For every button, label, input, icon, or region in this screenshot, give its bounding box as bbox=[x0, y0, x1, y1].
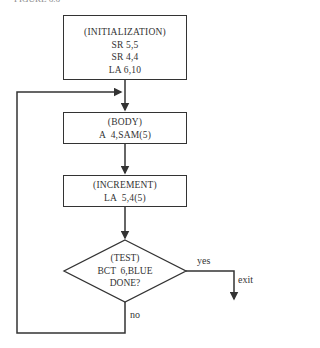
initialization-line-3: LA 6,10 bbox=[64, 64, 186, 77]
increment-title: (INCREMENT) bbox=[64, 179, 186, 192]
increment-box: (INCREMENT) LA 5,4(5) bbox=[63, 175, 187, 207]
exit-label: exit bbox=[238, 274, 253, 285]
initialization-box: (INITIALIZATION) SR 5,5 SR 4,4 LA 6,10 bbox=[63, 15, 187, 80]
initialization-line-1: SR 5,5 bbox=[64, 39, 186, 52]
initialization-line-2: SR 4,4 bbox=[64, 51, 186, 64]
increment-line-1: LA 5,4(5) bbox=[64, 192, 186, 205]
body-title: (BODY) bbox=[64, 116, 186, 129]
body-line-1: A 4,SAM(5) bbox=[64, 129, 186, 142]
test-line-2: DONE? bbox=[75, 277, 175, 290]
test-text: (TEST) BCT 6,BLUE DONE? bbox=[75, 252, 175, 290]
no-label: no bbox=[130, 309, 140, 320]
body-box: (BODY) A 4,SAM(5) bbox=[63, 112, 187, 144]
test-title: (TEST) bbox=[75, 252, 175, 265]
test-line-1: BCT 6,BLUE bbox=[75, 265, 175, 278]
initialization-title: (INITIALIZATION) bbox=[64, 26, 186, 39]
yes-label: yes bbox=[197, 255, 210, 266]
